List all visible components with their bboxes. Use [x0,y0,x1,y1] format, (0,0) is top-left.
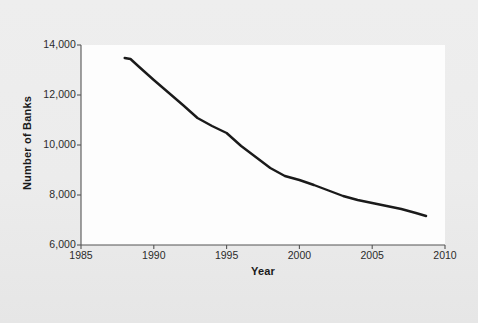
x-tick-label: 2010 [421,249,469,261]
x-tick-label: 2000 [275,249,323,261]
line-chart: 6,0008,00010,00012,00014,000 19851990199… [0,0,478,323]
y-tick-label: 14,000 [30,38,76,50]
y-tick-label: 12,000 [30,88,76,100]
y-axis-title: Number of Banks [21,73,33,213]
x-tick-label: 2005 [348,249,396,261]
x-tick-label: 1995 [203,249,251,261]
x-tick-label: 1990 [130,249,178,261]
y-tick-label: 10,000 [30,138,76,150]
x-tick-label: 1985 [57,249,105,261]
series-line [125,58,426,216]
x-axis-title: Year [81,265,445,277]
y-axis-ticks [77,45,81,245]
data-series-group [125,58,426,216]
y-tick-label: 8,000 [30,188,76,200]
